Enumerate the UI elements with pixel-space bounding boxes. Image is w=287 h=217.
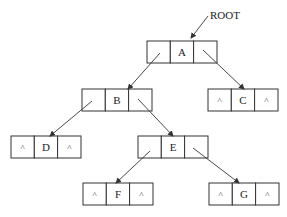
tree-node-e: E	[138, 136, 208, 158]
root-pointer-arrow	[191, 16, 208, 38]
edge-a-b	[128, 53, 160, 89]
tree-node-c: ^ C ^	[208, 89, 278, 111]
tree-node-a: A	[147, 41, 217, 63]
tree-node-b: B	[82, 89, 152, 111]
edge-a-c	[203, 50, 244, 89]
root-label: ROOT	[210, 9, 240, 21]
binary-tree-diagram: ROOT A B ^ C ^ ^ D ^ E	[0, 0, 287, 217]
node-label: C	[239, 94, 246, 106]
edge-e-g	[193, 148, 239, 183]
node-label: F	[115, 188, 121, 200]
node-label: A	[178, 46, 186, 58]
node-label: D	[42, 141, 50, 153]
edge-b-d	[50, 101, 92, 136]
edge-e-f	[116, 151, 150, 183]
node-label: G	[240, 188, 248, 200]
tree-node-g: ^ G ^	[209, 183, 279, 205]
node-label: B	[113, 94, 120, 106]
node-label: E	[170, 141, 177, 153]
edge-b-e	[138, 99, 173, 136]
tree-node-f: ^ F ^	[83, 183, 153, 205]
tree-node-d: ^ D ^	[11, 136, 81, 158]
